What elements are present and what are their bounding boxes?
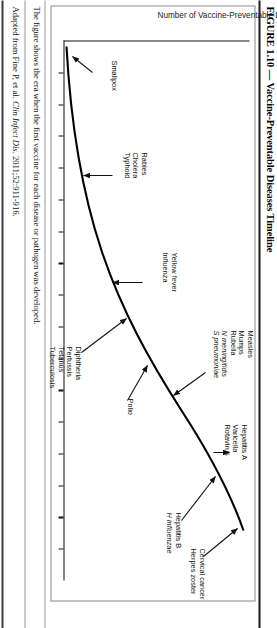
caption-source-prefix: Adapted from Fine P, et al.	[10, 6, 20, 101]
x-axis-tick	[58, 231, 63, 232]
caption-source-journal: Clin Infect Dis	[10, 101, 20, 152]
plot-area	[50, 5, 255, 601]
y-axis-line	[63, 40, 249, 41]
annotation-line: S pneumoniae	[210, 330, 219, 378]
annotation-diphtheria: DiphtheriaPertussisTetanusTuberculosis	[47, 346, 81, 388]
annotation-line: Hepatitis A	[238, 424, 247, 459]
x-axis-tick	[58, 262, 63, 263]
annotation-line: Polio	[124, 398, 133, 414]
caption-source-suffix: . 2011;52:911-916.	[10, 151, 20, 216]
annotation-line: Cervical cancer	[196, 548, 205, 599]
caption-divider-mid	[24, 0, 25, 628]
x-axis-tick	[58, 389, 63, 390]
annotation-line: Rotavirus	[221, 424, 230, 459]
annotation-hepatitis-a: Hepatitis AVaricellaRotavirus	[221, 424, 247, 459]
figure-rotated-canvas: FIGURE 1.10 — Vaccine-Preventable Diseas…	[0, 0, 277, 628]
annotation-yellowfever: Yellow feverInfluenza	[160, 252, 177, 292]
annotation-line: Yellow fever	[168, 252, 177, 292]
annotation-line: Influenza	[160, 252, 169, 292]
annotation-line: Measles	[244, 330, 253, 378]
x-axis-tick	[58, 453, 63, 454]
annotation-line: Smallpox	[108, 60, 117, 90]
annotation-rabies-group: RabiesCholeraTyphoid	[121, 152, 147, 178]
x-axis-tick	[58, 294, 63, 295]
x-axis-line	[63, 40, 64, 580]
annotation-line: Tetanus	[55, 346, 64, 388]
annotation-line: Diphtheria	[72, 346, 81, 388]
annotation-line: H influenzae	[164, 512, 173, 553]
figure-page: FIGURE 1.10 — Vaccine-Preventable Diseas…	[0, 0, 277, 628]
x-axis-tick	[58, 135, 63, 136]
x-axis-tick	[58, 326, 63, 327]
x-axis-tick	[58, 516, 63, 517]
caption-divider-top	[44, 0, 45, 628]
x-axis-tick	[58, 548, 63, 549]
figure-title: FIGURE 1.10 — Vaccine-Preventable Diseas…	[264, 6, 275, 252]
annotation-measles-group: MeaslesMumpsRubellaN meningitidisS pneum…	[210, 330, 253, 378]
title-divider	[258, 0, 260, 628]
x-axis-tick	[58, 421, 63, 422]
annotation-line: Tuberculosis	[47, 346, 56, 388]
caption-divider-bottom	[1, 0, 3, 628]
annotation-hepatitis-b: Hepatitis BH influenzae	[164, 512, 181, 553]
annotation-line: Rabies	[138, 152, 147, 178]
annotation-line: Typhoid	[121, 152, 130, 178]
caption-source: Adapted from Fine P, et al. Clin Infect …	[10, 6, 20, 216]
annotation-line: Herpes zoster	[188, 548, 197, 599]
y-axis-label: Number of Vaccine-Preventable Diseases	[157, 10, 277, 19]
annotation-cervical: Cervical cancerHerpes zoster	[188, 548, 205, 599]
x-axis-tick	[58, 72, 63, 73]
annotation-smallpox: Smallpox	[108, 60, 117, 90]
x-axis-tick	[58, 104, 63, 105]
caption-text: The figure shows the era when the first …	[31, 6, 41, 324]
x-axis-tick	[58, 199, 63, 200]
x-axis-tick	[58, 167, 63, 168]
x-axis-tick	[58, 485, 63, 486]
annotation-polio: Polio	[124, 398, 133, 414]
